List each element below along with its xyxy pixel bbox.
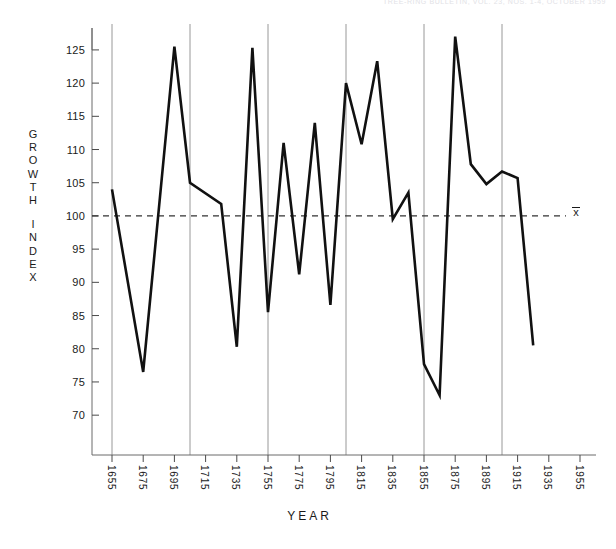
y-tick-marks-group [92,28,99,415]
y-tick-label-110: 110 [55,144,85,156]
x-tick-label-1755: 1755 [262,465,273,490]
y-tick-label-80: 80 [55,343,85,355]
x-tick-label-1735: 1735 [230,465,241,490]
x-tick-label-1915: 1915 [511,465,522,490]
x-tick-label-1695: 1695 [168,465,179,490]
y-tick-label-95: 95 [55,243,85,255]
y-tick-label-100: 100 [55,210,85,222]
y-tick-label-125: 125 [55,44,85,56]
x-tick-label-1775: 1775 [293,465,304,490]
x-tick-label-1815: 1815 [355,465,366,490]
x-tick-marks-group [112,455,580,462]
x-tick-label-1935: 1935 [542,465,553,490]
x-tick-label-1675: 1675 [137,465,148,490]
x-tick-label-1895: 1895 [480,465,491,490]
x-tick-label-1875: 1875 [449,465,460,490]
chart-svg [0,0,616,549]
x-axis-title: YEAR [0,509,616,523]
x-bar-mean-label: x [572,207,580,218]
x-tick-label-1795: 1795 [324,465,335,490]
y-tick-label-75: 75 [55,376,85,388]
growth-index-figure: TREE-RING BULLETIN, VOL. 23, NOS. 1-4, O… [0,0,616,549]
x-tick-label-1835: 1835 [386,465,397,490]
y-tick-label-105: 105 [55,177,85,189]
y-tick-label-70: 70 [55,409,85,421]
x-tick-label-1955: 1955 [574,465,585,490]
y-tick-label-85: 85 [55,310,85,322]
plot-area [0,0,616,549]
y-tick-label-115: 115 [55,110,85,122]
y-tick-label-90: 90 [55,276,85,288]
axis-lines-group [92,28,596,455]
x-tick-label-1655: 1655 [106,465,117,490]
x-tick-label-1855: 1855 [418,465,429,490]
x-tick-label-1715: 1715 [199,465,210,490]
x-bar-symbol: x [572,207,580,218]
y-tick-label-120: 120 [55,77,85,89]
